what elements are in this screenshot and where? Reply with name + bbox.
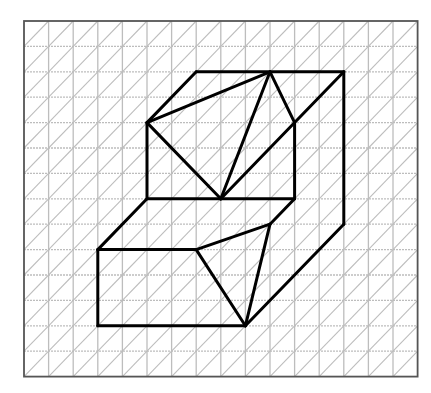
grid-line-diagonal — [245, 46, 270, 71]
grid-line-diagonal — [49, 224, 74, 249]
figure-edge — [270, 199, 295, 224]
grid-line-diagonal — [172, 326, 197, 351]
grid-line-diagonal — [270, 250, 295, 275]
grid-line-diagonal — [319, 275, 344, 300]
grid-line-diagonal — [98, 46, 123, 71]
grid-line-diagonal — [221, 326, 246, 351]
grid-line-diagonal — [196, 46, 221, 71]
grid-line-diagonal — [122, 123, 147, 148]
grid-line-diagonal — [172, 300, 197, 325]
grid-line-diagonal — [393, 46, 418, 71]
grid-line-diagonal — [270, 72, 295, 97]
grid-line-diagonal — [319, 148, 344, 173]
grid-line-diagonal — [393, 199, 418, 224]
grid-line-diagonal — [295, 351, 320, 376]
grid-line-diagonal — [344, 97, 369, 122]
grid-line-diagonal — [344, 46, 369, 71]
grid-line-diagonal — [245, 21, 270, 46]
grid-line-diagonal — [319, 46, 344, 71]
grid-line-diagonal — [24, 199, 49, 224]
grid-line-diagonal — [368, 275, 393, 300]
grid-line-diagonal — [98, 326, 123, 351]
grid-line-diagonal — [49, 72, 74, 97]
grid-line-diagonal — [344, 326, 369, 351]
grid-line-diagonal — [73, 199, 98, 224]
grid-line-diagonal — [49, 250, 74, 275]
grid-line-diagonal — [147, 326, 172, 351]
grid-line-diagonal — [245, 326, 270, 351]
grid-line-diagonal — [73, 326, 98, 351]
grid-line-diagonal — [221, 199, 246, 224]
grid-line-diagonal — [368, 72, 393, 97]
grid-line-diagonal — [122, 21, 147, 46]
grid-line-diagonal — [122, 275, 147, 300]
grid-line-diagonal — [122, 72, 147, 97]
grid-line-diagonal — [319, 97, 344, 122]
grid-line-diagonal — [24, 300, 49, 325]
grid-line-diagonal — [221, 250, 246, 275]
grid-line-diagonal — [295, 46, 320, 71]
grid-line-diagonal — [98, 173, 123, 198]
grid-line-diagonal — [270, 326, 295, 351]
grid-line-diagonal — [24, 46, 49, 71]
grid-line-diagonal — [24, 123, 49, 148]
grid-line-diagonal — [73, 148, 98, 173]
grid-line-diagonal — [98, 300, 123, 325]
grid-line-diagonal — [172, 123, 197, 148]
grid-line-diagonal — [73, 300, 98, 325]
grid-line-diagonal — [319, 326, 344, 351]
grid-line-diagonal — [393, 173, 418, 198]
grid-line-diagonal — [122, 326, 147, 351]
grid-line-diagonal — [295, 173, 320, 198]
grid-line-diagonal — [245, 173, 270, 198]
grid-line-diagonal — [393, 351, 418, 376]
grid-line-diagonal — [73, 351, 98, 376]
grid-line-diagonal — [122, 300, 147, 325]
grid-line-diagonal — [122, 250, 147, 275]
grid-line-diagonal — [393, 275, 418, 300]
grid-line-diagonal — [49, 275, 74, 300]
grid-line-diagonal — [319, 199, 344, 224]
grid-line-diagonal — [49, 148, 74, 173]
grid-line-diagonal — [393, 21, 418, 46]
grid-line-diagonal — [344, 250, 369, 275]
grid-line-diagonal — [172, 173, 197, 198]
grid-line-diagonal — [98, 351, 123, 376]
grid-line-diagonal — [270, 97, 295, 122]
grid-line-diagonal — [344, 148, 369, 173]
grid-line-diagonal — [319, 173, 344, 198]
grid-line-diagonal — [319, 351, 344, 376]
grid-line-diagonal — [73, 173, 98, 198]
grid-line-diagonal — [368, 250, 393, 275]
grid-line-diagonal — [147, 21, 172, 46]
grid-line-diagonal — [196, 326, 221, 351]
grid-line-diagonal — [98, 123, 123, 148]
grid-line-diagonal — [344, 72, 369, 97]
grid-line-diagonal — [221, 275, 246, 300]
grid-line-diagonal — [196, 300, 221, 325]
grid-line-diagonal — [172, 275, 197, 300]
grid-line-diagonal — [368, 123, 393, 148]
grid-line-diagonal — [24, 275, 49, 300]
grid-line-diagonal — [270, 300, 295, 325]
grid-line-diagonal — [295, 21, 320, 46]
grid-line-diagonal — [295, 148, 320, 173]
grid-line-diagonal — [270, 351, 295, 376]
grid-line-diagonal — [368, 46, 393, 71]
grid-line-diagonal — [24, 21, 49, 46]
grid-line-diagonal — [319, 21, 344, 46]
grid-line-diagonal — [172, 199, 197, 224]
grid-line-diagonal — [368, 326, 393, 351]
grid-line-diagonal — [172, 46, 197, 71]
grid-line-diagonal — [73, 250, 98, 275]
grid-line-diagonal — [270, 21, 295, 46]
grid-line-diagonal — [49, 351, 74, 376]
grid-line-diagonal — [172, 250, 197, 275]
grid-line-diagonal — [147, 250, 172, 275]
grid-line-diagonal — [368, 300, 393, 325]
grid-line-diagonal — [295, 224, 320, 249]
diagram-canvas — [0, 0, 431, 393]
grid-line-diagonal — [147, 148, 172, 173]
grid-line-diagonal — [73, 21, 98, 46]
grid-line-diagonal — [368, 199, 393, 224]
